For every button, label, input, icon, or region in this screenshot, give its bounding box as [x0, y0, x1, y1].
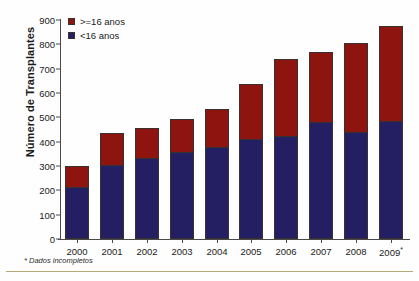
y-axis-tick-mark: [56, 44, 60, 45]
bar-segment-younger-2007: [309, 122, 333, 239]
legend-item-older: >=16 anos: [68, 16, 125, 27]
bar-segment-older-2008: [344, 43, 368, 132]
bar-2005: [239, 84, 263, 239]
legend-swatch-older: [68, 18, 75, 25]
bottom-divider: [6, 271, 413, 272]
plot-area: 9008007006005004003002001000: [60, 20, 408, 239]
y-axis-tick-mark: [56, 117, 60, 118]
bar-segment-older-2007: [309, 52, 333, 122]
bar-segment-older-2004: [205, 109, 229, 147]
bar-segment-older-2003: [170, 119, 194, 152]
bar-segment-older-2006: [274, 59, 298, 135]
y-axis-tick-mark: [56, 141, 60, 142]
x-axis-tick-mark: [251, 239, 252, 243]
bar-segment-younger-2006: [274, 136, 298, 239]
legend-label-older: >=16 anos: [80, 16, 125, 27]
bar-segment-younger-2003: [170, 152, 194, 239]
y-axis-tick-mark: [56, 68, 60, 69]
y-axis-tick-mark: [56, 239, 60, 240]
bar-segment-older-2002: [135, 128, 159, 158]
y-axis-tick-mark: [56, 214, 60, 215]
y-axis-tick-mark: [56, 190, 60, 191]
y-axis-tick-mark: [56, 20, 60, 21]
y-axis-title: Número de Transplantes: [24, 12, 36, 172]
bar-segment-younger-2009: [379, 121, 403, 239]
legend-swatch-younger: [68, 32, 75, 39]
bar-2000: [65, 166, 89, 239]
y-axis-tick-mark: [56, 93, 60, 94]
x-axis-line: [58, 239, 410, 240]
incomplete-data-asterisk: *: [400, 246, 403, 253]
bar-2006: [274, 59, 298, 239]
legend-item-younger: <16 anos: [68, 30, 125, 41]
bar-2003: [170, 119, 194, 239]
x-axis-tick-mark: [391, 239, 392, 243]
chart-legend: >=16 anos <16 anos: [68, 16, 125, 44]
bar-2001: [100, 133, 124, 239]
x-axis-tick-mark: [77, 239, 78, 243]
bar-segment-older-2005: [239, 84, 263, 139]
bar-segment-younger-2001: [100, 165, 124, 239]
x-axis-tick-mark: [217, 239, 218, 243]
x-axis-label-2009: 2009*: [368, 246, 414, 258]
x-axis-tick-mark: [182, 239, 183, 243]
x-axis-tick-mark: [112, 239, 113, 243]
bar-segment-younger-2005: [239, 139, 263, 239]
bar-segment-younger-2002: [135, 158, 159, 239]
x-axis-tick-mark: [147, 239, 148, 243]
bar-segment-younger-2008: [344, 132, 368, 239]
bar-2009: [379, 26, 403, 239]
x-axis-tick-mark: [321, 239, 322, 243]
bar-2008: [344, 43, 368, 239]
x-axis-tick-mark: [286, 239, 287, 243]
transplant-bar-chart: Número de Transplantes 90080070060050040…: [0, 0, 419, 281]
bar-segment-younger-2000: [65, 187, 89, 239]
bar-2007: [309, 52, 333, 239]
bar-2004: [205, 109, 229, 239]
bar-2002: [135, 128, 159, 239]
bar-segment-younger-2004: [205, 147, 229, 239]
legend-label-younger: <16 anos: [80, 30, 119, 41]
y-axis-tick-mark: [56, 166, 60, 167]
bar-segment-older-2000: [65, 166, 89, 187]
chart-footnote: * Dados incompletos: [24, 256, 93, 265]
bar-segment-older-2001: [100, 133, 124, 165]
x-axis-tick-mark: [356, 239, 357, 243]
bar-segment-older-2009: [379, 26, 403, 121]
